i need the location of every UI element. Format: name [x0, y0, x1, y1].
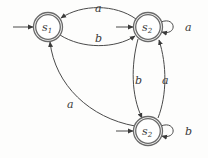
state-s2-bottom: s2 — [134, 117, 163, 146]
edge-s2top-s2bottom-b: b — [133, 39, 142, 118]
edge-label: b — [185, 125, 192, 138]
edge-s2bottom-s1-a: a — [50, 42, 135, 126]
state-s2-top: s2 — [134, 13, 163, 42]
edge-label: b — [135, 74, 142, 87]
automaton-diagram: a b a b a a b s1 s2 — [0, 0, 208, 158]
edge-s1-s2top-b: b — [60, 32, 135, 46]
edge-s2bottom-loop-b: b — [161, 125, 192, 138]
edge-s2top-loop-a: a — [161, 21, 192, 34]
state-s1: s1 — [34, 13, 63, 42]
edge-label: a — [95, 2, 102, 15]
edge-label: a — [185, 21, 192, 34]
edge-s2top-s1-a: a — [61, 2, 136, 19]
edge-label: a — [162, 74, 169, 87]
edge-label: a — [67, 98, 74, 111]
edge-s2bottom-s2top-a: a — [158, 40, 169, 118]
edge-label: b — [95, 32, 102, 45]
